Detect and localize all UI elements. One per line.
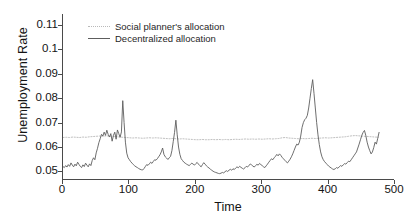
legend-swatch-dotted-icon: [88, 26, 110, 27]
series-line-decentralized-allocation: [63, 80, 379, 174]
legend-item-social-planner: Social planner's allocation: [88, 21, 225, 33]
x-tick-label: 400: [308, 183, 348, 195]
x-tick-mark: [328, 180, 329, 184]
x-tick-label: 0: [42, 183, 82, 195]
y-tick-label: 0.08: [20, 92, 58, 104]
x-tick-mark: [195, 180, 196, 184]
legend: Social planner's allocation Decentralize…: [88, 21, 225, 44]
legend-item-decentralized: Decentralized allocation: [88, 33, 225, 45]
y-tick-label: 0.11: [20, 19, 58, 31]
y-tick-label: 0.09: [20, 68, 58, 80]
x-tick-label: 100: [108, 183, 148, 195]
x-tick-mark: [394, 180, 395, 184]
series-line-social-planner-s-allocation: [63, 136, 378, 140]
unemployment-rate-chart: Unemployment Rate 0.050.060.070.080.090.…: [0, 0, 419, 219]
y-tick-label: 0.06: [20, 141, 58, 153]
y-tick-label: 0.1: [20, 43, 58, 55]
y-tick-label: 0.07: [20, 117, 58, 129]
x-tick-mark: [128, 180, 129, 184]
legend-swatch-solid-icon: [88, 38, 110, 39]
x-tick-mark: [62, 180, 63, 184]
legend-label-decentralized: Decentralized allocation: [115, 33, 216, 45]
x-tick-label: 200: [175, 183, 215, 195]
y-tick-label: 0.05: [20, 165, 58, 177]
x-tick-mark: [261, 180, 262, 184]
x-axis-title: Time: [62, 200, 394, 214]
legend-label-social-planner: Social planner's allocation: [115, 21, 225, 33]
x-tick-label: 500: [374, 183, 414, 195]
x-tick-label: 300: [241, 183, 281, 195]
